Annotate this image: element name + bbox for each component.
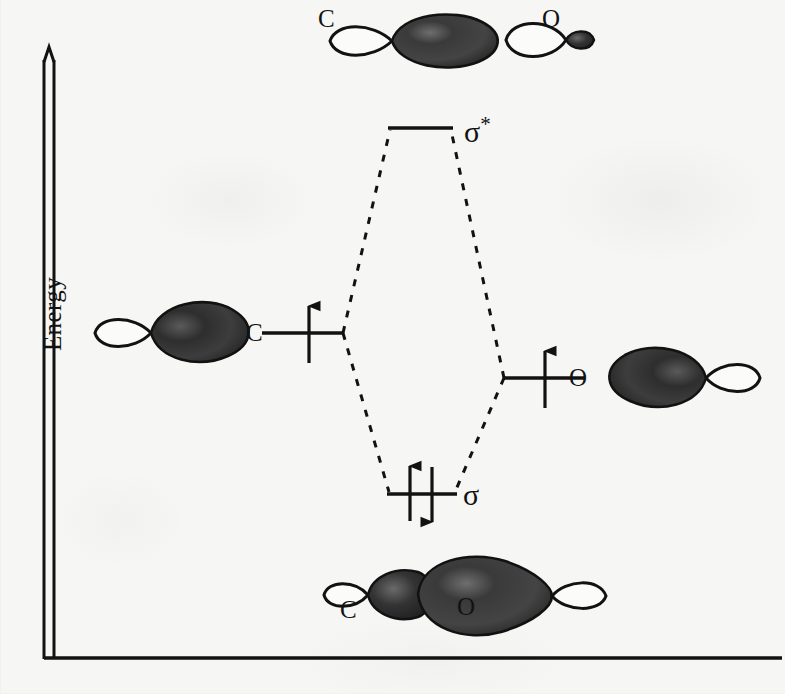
oxygen-atom-label: O — [569, 365, 587, 390]
dashed-o-to-sigma — [455, 378, 504, 492]
sigma-star-asterisk: * — [480, 112, 491, 136]
y-axis-label: Energy — [40, 254, 65, 374]
diagram-canvas — [0, 0, 785, 694]
antibonding-picture-label-c: C — [318, 6, 335, 31]
mo-diagram-figure: Energy C O C O σ* σ C O — [0, 0, 785, 694]
carbon-atom-label: C — [246, 320, 263, 345]
antibonding-picture-label-o: O — [542, 6, 560, 31]
bonding-picture-label-o: O — [457, 594, 475, 619]
oxygen-atomic-orbital-picture — [609, 348, 760, 407]
sigma-star-glyph: σ — [464, 115, 480, 148]
sigma-star-label: σ* — [464, 114, 491, 147]
bonding-picture-label-c: C — [340, 597, 357, 622]
dashed-c-to-sigma — [343, 333, 389, 492]
dashed-c-to-sigma-star — [343, 130, 390, 333]
dashed-o-to-sigma-star — [451, 130, 504, 378]
y-axis-arrowhead — [44, 47, 54, 62]
carbon-atomic-orbital-picture — [95, 302, 249, 362]
correlation-lines — [343, 130, 504, 492]
sigma-label: σ — [463, 480, 479, 510]
